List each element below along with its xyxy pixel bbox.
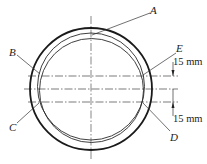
ring-cross-section-diagram: A B C D E 15 mm 15 mm xyxy=(0,0,207,164)
label-d: D xyxy=(169,131,178,143)
lower-arrow-icon xyxy=(172,102,175,108)
label-e: E xyxy=(175,42,183,54)
leader-line-b xyxy=(17,55,40,74)
leader-line-e xyxy=(143,53,176,75)
inner-circle xyxy=(40,39,144,143)
upper-arrow-icon xyxy=(172,70,175,76)
lower-dimension-label: 15 mm xyxy=(173,113,202,124)
leader-line-a xyxy=(92,13,150,35)
leader-line-d xyxy=(143,103,170,131)
label-b: B xyxy=(9,46,16,58)
label-c: C xyxy=(9,121,17,133)
label-a: A xyxy=(149,4,157,16)
upper-dimension-label: 15 mm xyxy=(173,56,202,67)
